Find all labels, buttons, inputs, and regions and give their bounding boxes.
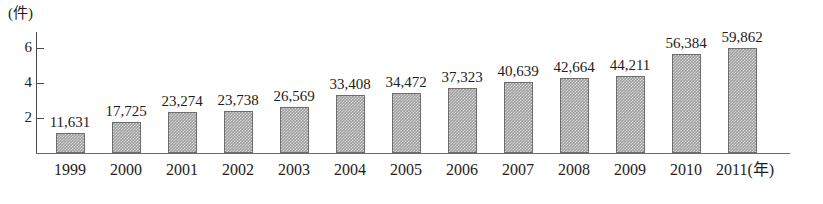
x-axis-tick-label: 2009: [602, 160, 658, 179]
bar: [560, 78, 589, 153]
x-axis-tick-label: 2006: [434, 160, 490, 179]
x-axis-tick-label: 2002: [210, 160, 266, 179]
x-axis-tick-label: 2007: [490, 160, 546, 179]
bar-group: 26,569: [266, 0, 322, 153]
bar-value-label: 23,274: [161, 94, 202, 109]
bar-value-label: 34,472: [385, 75, 426, 90]
x-axis-tick-label: 2001: [154, 160, 210, 179]
bar-value-label: 37,323: [441, 70, 482, 85]
bar: [336, 95, 365, 153]
x-axis-tick-label: 2011(年): [714, 160, 812, 179]
x-axis-tick-label: 2008: [546, 160, 602, 179]
bar-value-label: 42,664: [553, 60, 594, 75]
x-axis-tick-label: 2005: [378, 160, 434, 179]
bar: [616, 76, 645, 153]
bar-group: 23,274: [154, 0, 210, 153]
plot-area: 11,63117,72523,27423,73826,56933,40834,4…: [36, 0, 790, 153]
x-axis-labels: 1999200020012002200320042005200620072008…: [36, 160, 790, 186]
x-axis-tick-label: 2010: [658, 160, 714, 179]
bar-group: 11,631: [42, 0, 98, 153]
bar-group: 59,862: [714, 0, 770, 153]
bar: [168, 112, 197, 153]
bar-group: 44,211: [602, 0, 658, 153]
bar-value-label: 33,408: [329, 77, 370, 92]
bar: [224, 111, 253, 153]
x-axis-tick-label: 2004: [322, 160, 378, 179]
bar-value-label: 17,725: [105, 104, 146, 119]
y-axis-tick-label: 6: [4, 40, 32, 55]
bar-group: 40,639: [490, 0, 546, 153]
bar-group: 23,738: [210, 0, 266, 153]
bar: [672, 54, 701, 153]
bar: [112, 122, 141, 153]
bar-group: 17,725: [98, 0, 154, 153]
y-axis-unit-label: (件): [8, 6, 33, 21]
bar-value-label: 40,639: [497, 64, 538, 79]
bar-value-label: 26,569: [273, 89, 314, 104]
bar: [280, 107, 309, 153]
bar-value-label: 44,211: [610, 58, 651, 73]
bar-group: 34,472: [378, 0, 434, 153]
bar-group: 33,408: [322, 0, 378, 153]
bar-group: 56,384: [658, 0, 714, 153]
x-axis-tick-label: 1999: [42, 160, 98, 179]
bar-group: 42,664: [546, 0, 602, 153]
bar: [56, 133, 85, 153]
bar: [448, 88, 477, 153]
bar-value-label: 59,862: [721, 30, 762, 45]
bar: [504, 82, 533, 153]
bar: [728, 48, 757, 153]
y-axis-tick-label: 2: [4, 110, 32, 125]
bar-chart: (件) 246 11,63117,72523,27423,73826,56933…: [0, 0, 823, 204]
x-axis-tick-label: 2000: [98, 160, 154, 179]
x-axis-tick-label: 2003: [266, 160, 322, 179]
bar-value-label: 11,631: [50, 115, 91, 130]
bar-value-label: 56,384: [665, 36, 706, 51]
y-axis-tick-label: 4: [4, 75, 32, 90]
bar: [392, 93, 421, 153]
x-axis-line: [36, 153, 790, 154]
bar-group: 37,323: [434, 0, 490, 153]
bar-value-label: 23,738: [217, 93, 258, 108]
